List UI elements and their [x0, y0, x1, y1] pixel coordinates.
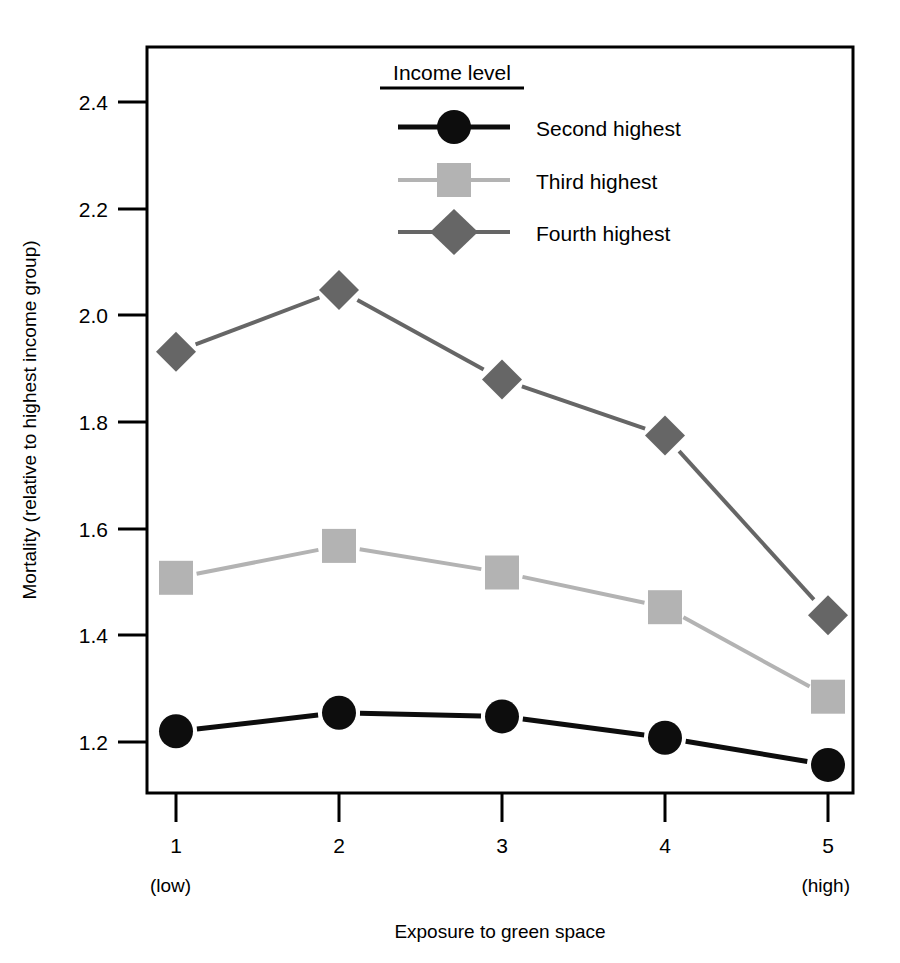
x-tick-label-0: 1	[170, 834, 182, 857]
x-tick-label-2: 3	[496, 834, 508, 857]
x-axis-tick-labels: 1 2 3 4 5	[170, 834, 834, 857]
y-tick-label-5: 2.2	[79, 198, 108, 221]
y-axis-ticks	[118, 102, 147, 742]
mortality-green-space-line-chart: 2.4 2.2 2.0 1.8 1.6 1.4 1.2 1 2 3 4 5 (l…	[0, 0, 900, 963]
y-tick-label-2: 1.6	[79, 518, 108, 541]
y-tick-label-6: 2.4	[79, 91, 109, 114]
series-segment	[360, 713, 481, 716]
x-axis-low-note: (low)	[150, 875, 191, 896]
y-axis-title: Mortality (relative to highest income gr…	[19, 240, 40, 599]
y-tick-label-4: 2.0	[79, 304, 108, 327]
y-tick-label-3: 1.8	[79, 411, 108, 434]
square-marker	[159, 561, 193, 595]
circle-marker-icon	[437, 110, 471, 144]
chart-figure: 2.4 2.2 2.0 1.8 1.6 1.4 1.2 1 2 3 4 5 (l…	[0, 0, 900, 963]
x-tick-label-1: 2	[333, 834, 345, 857]
circle-marker	[322, 696, 356, 730]
x-axis-title: Exposure to green space	[394, 921, 605, 942]
square-marker	[648, 590, 682, 624]
legend-title: Income level	[393, 61, 511, 84]
x-tick-label-4: 5	[822, 834, 834, 857]
circle-marker	[811, 748, 845, 782]
circle-marker	[485, 699, 519, 733]
square-marker	[322, 529, 356, 563]
x-tick-label-3: 4	[659, 834, 671, 857]
square-marker	[811, 680, 845, 714]
circle-marker	[159, 714, 193, 748]
legend-label-second-highest: Second highest	[536, 117, 681, 140]
plot-area-frame	[147, 47, 853, 793]
y-axis-tick-labels: 2.4 2.2 2.0 1.8 1.6 1.4 1.2	[79, 91, 109, 754]
legend-label-third-highest: Third highest	[536, 170, 658, 193]
y-tick-label-1: 1.4	[79, 624, 109, 647]
legend-label-fourth-highest: Fourth highest	[536, 222, 670, 245]
circle-marker	[648, 721, 682, 755]
y-tick-label-0: 1.2	[79, 731, 108, 754]
square-marker-icon	[437, 163, 471, 197]
x-axis-high-note: (high)	[801, 875, 850, 896]
square-marker	[485, 556, 519, 590]
x-axis-ticks	[176, 793, 828, 822]
